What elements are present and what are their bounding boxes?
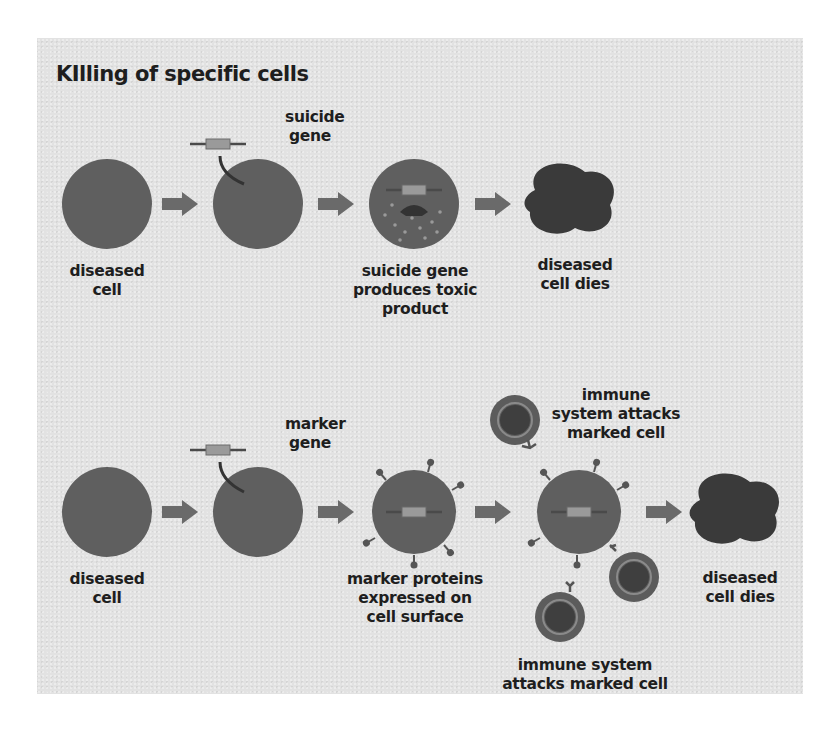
immune-cell-icon [535,592,585,642]
top-row [62,139,614,249]
arrow-icon [318,500,354,524]
dead-cell-icon [690,474,779,544]
immune-cell-icon [490,395,540,445]
diseased-cell-icon [62,467,152,557]
diagram-graphics [0,0,834,751]
diseased-cell-icon [62,159,152,249]
suicide-gene-label: suicide gene [285,108,345,146]
marker-gene-icon [190,445,246,455]
cell-dies-label: diseased cell dies [685,569,795,607]
suicide-gene-icon [190,139,246,149]
toxic-product-label: suicide gene produces toxic product [350,262,480,319]
immune-cell-icon [609,552,659,602]
marker-proteins-label: marker proteins expressed on cell surfac… [340,570,490,627]
immune-attack-top-label: immune system attacks marked cell [546,386,686,443]
marker-cell-icon [362,458,466,568]
arrow-icon [162,192,198,216]
arrow-icon [475,192,511,216]
cell-dies-label: diseased cell dies [520,256,630,294]
arrow-icon [162,500,198,524]
toxic-product-cell-icon [369,159,459,249]
diseased-cell-label: diseased cell [57,570,157,608]
immune-attack-bottom-label: immune system attacks marked cell [495,656,675,694]
arrow-icon [646,500,682,524]
arrow-icon [318,192,354,216]
diseased-cell-label: diseased cell [57,262,157,300]
marker-gene-label: marker gene [285,415,346,453]
arrow-icon [475,500,511,524]
attacked-cell-icon [527,458,631,568]
dead-cell-icon [525,164,614,234]
